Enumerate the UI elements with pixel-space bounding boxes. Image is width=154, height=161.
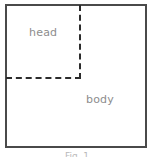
outer-boundary-box bbox=[5, 4, 147, 148]
figure-caption: Fig. 1 bbox=[0, 152, 154, 157]
dashed-divider-vertical bbox=[79, 5, 81, 79]
dashed-divider-horizontal bbox=[6, 77, 81, 79]
diagram-canvas: head body Fig. 1 bbox=[0, 0, 154, 161]
region-label-head: head bbox=[29, 27, 57, 39]
region-label-body: body bbox=[86, 94, 114, 106]
